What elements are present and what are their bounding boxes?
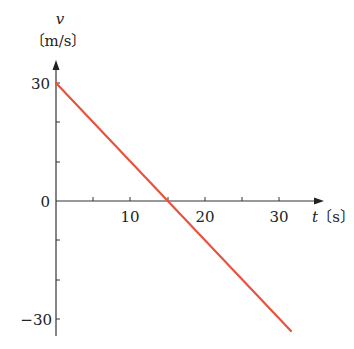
y-axis-unit: 〔m/s〕 bbox=[30, 32, 87, 50]
velocity-line bbox=[56, 83, 291, 331]
velocity-time-chart: v 〔m/s〕 30 0 −30 10 20 30 t 〔s〕 bbox=[0, 0, 354, 349]
y-axis-label: v bbox=[56, 10, 65, 28]
x-axis-unit: 〔s〕 bbox=[317, 208, 354, 226]
x-tick-label-20: 20 bbox=[195, 208, 214, 226]
x-axis-arrow-icon bbox=[314, 198, 324, 205]
x-tick-label-10: 10 bbox=[120, 208, 139, 226]
origin-label: 0 bbox=[40, 193, 50, 211]
y-tick-label-30: 30 bbox=[31, 75, 50, 93]
y-tick-label-neg30: −30 bbox=[20, 311, 52, 329]
x-tick-label-30: 30 bbox=[269, 208, 288, 226]
y-axis-arrow-icon bbox=[53, 60, 60, 70]
